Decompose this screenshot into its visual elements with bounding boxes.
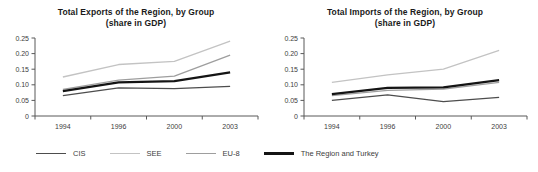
imports-chart: Total Imports of the Region, by Group (s…	[269, 0, 538, 146]
x-tick-label: 1996	[380, 123, 396, 130]
y-tick-label: 0.15	[15, 66, 29, 73]
chart-legend: CIS SEE EU-8 The Region and Turkey	[36, 149, 403, 158]
legend-item-see: SEE	[110, 149, 162, 158]
legend-label-see: SEE	[147, 149, 162, 158]
legend-item-eu8: EU-8	[186, 149, 240, 158]
series-line-see	[332, 50, 499, 82]
y-tick-label: 0.05	[15, 97, 29, 104]
y-tick-label: 0.10	[284, 81, 298, 88]
x-tick-label: 1996	[111, 123, 127, 130]
imports-chart-title: Total Imports of the Region, by Group (s…	[289, 7, 521, 29]
x-tick-label: 2000	[167, 123, 183, 130]
eu8-line-swatch	[186, 153, 216, 154]
imports-plot-area: 00.050.100.150.200.251994199620002003	[269, 30, 538, 144]
y-tick-label: 0	[25, 113, 29, 120]
series-line-see	[63, 41, 230, 77]
exports-chart: Total Exports of the Region, by Group (s…	[0, 0, 269, 146]
x-tick-label: 1994	[324, 123, 340, 130]
y-tick-label: 0.25	[15, 35, 29, 42]
region-turkey-line-swatch	[264, 152, 294, 154]
legend-label-region-turkey: The Region and Turkey	[301, 149, 379, 158]
x-tick-label: 1994	[55, 123, 71, 130]
legend-label-eu8: EU-8	[223, 149, 240, 158]
series-line-cis	[332, 95, 499, 102]
x-tick-label: 2003	[491, 123, 507, 130]
y-tick-label: 0	[294, 113, 298, 120]
see-line-swatch	[110, 153, 140, 154]
imports-chart-title-line2: (share in GDP)	[289, 18, 521, 29]
legend-label-cis: CIS	[73, 149, 86, 158]
y-tick-label: 0.15	[284, 66, 298, 73]
series-line-the-region-and-turkey	[332, 80, 499, 94]
y-tick-label: 0.05	[284, 97, 298, 104]
legend-item-cis: CIS	[36, 149, 86, 158]
cis-line-swatch	[36, 153, 66, 154]
exports-plot-area: 00.050.100.150.200.251994199620002003	[0, 30, 269, 144]
exports-chart-title-line2: (share in GDP)	[20, 18, 252, 29]
y-tick-label: 0.20	[15, 50, 29, 57]
imports-chart-title-line1: Total Imports of the Region, by Group	[289, 7, 521, 18]
y-tick-label: 0.10	[15, 81, 29, 88]
legend-item-region-turkey: The Region and Turkey	[264, 149, 379, 158]
series-line-eu-8	[63, 55, 230, 89]
exports-chart-title-line1: Total Exports of the Region, by Group	[20, 7, 252, 18]
y-tick-label: 0.20	[284, 50, 298, 57]
y-tick-label: 0.25	[284, 35, 298, 42]
exports-chart-title: Total Exports of the Region, by Group (s…	[20, 7, 252, 29]
x-tick-label: 2003	[222, 123, 238, 130]
x-tick-label: 2000	[436, 123, 452, 130]
